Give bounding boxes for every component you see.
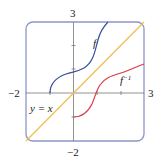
curve-f-inverse	[74, 64, 145, 117]
label-y-equals-x: y = x	[29, 102, 53, 114]
x-max-label: 3	[148, 87, 154, 99]
y-min-label: −2	[67, 146, 79, 158]
x-min-label: −2	[8, 87, 20, 99]
curve-f	[50, 22, 108, 93]
inverse-function-chart: 3 −2 −2 3 f f−1 y = x	[0, 0, 166, 164]
y-max-label: 3	[70, 7, 76, 19]
label-f-inverse: f−1	[120, 74, 131, 86]
